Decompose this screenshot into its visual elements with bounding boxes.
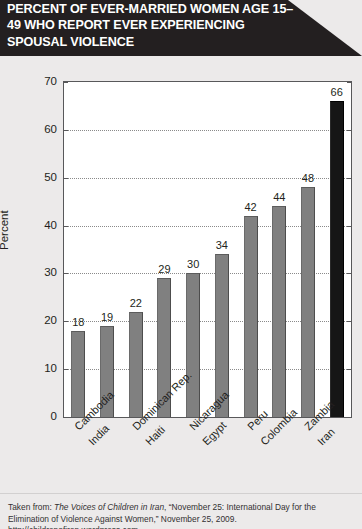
y-axis-tick-label: 60: [11, 123, 57, 135]
x-axis-category-label: Egypt: [200, 419, 228, 447]
gridline: [64, 130, 351, 131]
x-axis-category-label: India: [86, 423, 111, 448]
bar: [71, 331, 85, 417]
y-axis-tick-mark: [347, 273, 351, 274]
bar: [129, 312, 143, 417]
bar-value-label: 19: [92, 311, 122, 323]
bar: [244, 216, 258, 417]
y-axis-tick-label: 0: [11, 410, 57, 422]
y-axis-tick-label: 50: [11, 171, 57, 183]
y-axis-tick-mark: [64, 130, 68, 131]
bar: [186, 273, 200, 417]
y-axis-tick-mark: [64, 273, 68, 274]
page-title: PERCENT OF EVER-MARRIED WOMEN AGE 15–49 …: [7, 1, 297, 50]
y-axis-tick-mark: [64, 82, 68, 83]
y-axis-tick-mark: [64, 369, 68, 370]
x-axis-category-label: Iran: [315, 426, 337, 448]
y-axis-tick-label: 40: [11, 219, 57, 231]
bar-value-label: 42: [236, 201, 266, 213]
y-axis-tick-label: 10: [11, 362, 57, 374]
source-note-title: The Voices of Children in Iran: [54, 502, 164, 512]
bar-value-label: 34: [207, 239, 237, 251]
y-axis-tick-label: 70: [11, 75, 57, 87]
y-axis-tick-mark: [347, 417, 351, 418]
y-axis-tick-mark: [347, 369, 351, 370]
bar: [272, 206, 286, 417]
y-axis-tick-mark: [347, 321, 351, 322]
y-axis-tick-label: 30: [11, 266, 57, 278]
x-axis-category-label: Haiti: [143, 424, 167, 448]
header-banner: PERCENT OF EVER-MARRIED WOMEN AGE 15–49 …: [0, 0, 362, 56]
y-axis-tick-label: 20: [11, 314, 57, 326]
bar-value-label: 30: [178, 258, 208, 270]
y-axis-tick-mark: [64, 178, 68, 179]
source-note: Taken from: The Voices of Children in Ir…: [8, 502, 356, 529]
chart-container: Percent 01020304050607018Cambodia19India…: [0, 56, 362, 493]
y-axis-tick-mark: [64, 226, 68, 227]
bar-value-label: 48: [293, 172, 323, 184]
bar: [301, 187, 315, 417]
footer-bar: Taken from: The Voices of Children in Ir…: [0, 493, 362, 529]
bar: [330, 101, 344, 417]
bar-value-label: 29: [149, 263, 179, 275]
chart-page: PERCENT OF EVER-MARRIED WOMEN AGE 15–49 …: [0, 0, 362, 529]
bar-value-label: 22: [121, 297, 151, 309]
bar-value-label: 66: [322, 86, 352, 98]
y-axis-tick-mark: [347, 130, 351, 131]
y-axis-tick-mark: [347, 82, 351, 83]
bar-value-label: 44: [264, 191, 294, 203]
y-axis-title: Percent: [0, 210, 10, 250]
y-axis-tick-mark: [347, 226, 351, 227]
bar-value-label: 18: [63, 316, 93, 328]
y-axis-tick-mark: [64, 417, 68, 418]
source-note-prefix: Taken from:: [8, 502, 54, 512]
y-axis-tick-mark: [347, 178, 351, 179]
